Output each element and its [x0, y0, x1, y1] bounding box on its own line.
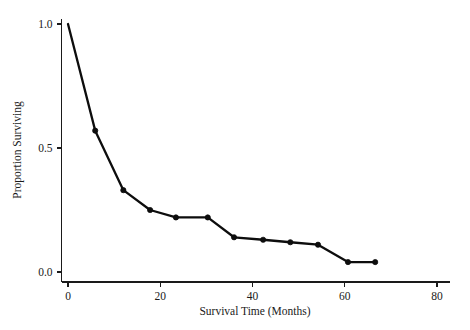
- chart-canvas: 0.00.51.0 020406080 Survival Time (Month…: [0, 0, 470, 330]
- data-point-marker: [315, 242, 320, 247]
- survival-line: [68, 24, 375, 262]
- data-point-marker: [345, 259, 350, 264]
- data-point-marker: [288, 240, 293, 245]
- x-axis-label: Survival Time (Months): [199, 305, 310, 318]
- survival-markers: [93, 128, 378, 265]
- x-tick-label: 40: [247, 290, 259, 302]
- axes-group: [62, 19, 451, 282]
- y-axis-label: Proportion Surviving: [11, 101, 24, 199]
- x-tick-label: 20: [155, 290, 167, 302]
- y-tick-label: 0.0: [38, 266, 53, 278]
- data-point-marker: [205, 215, 210, 220]
- survival-curve-figure: 0.00.51.0 020406080 Survival Time (Month…: [0, 0, 470, 330]
- data-point-marker: [231, 235, 236, 240]
- data-point-marker: [173, 215, 178, 220]
- x-tick-label: 80: [431, 290, 443, 302]
- y-tick-label: 1.0: [38, 18, 53, 30]
- x-tick-label: 60: [339, 290, 351, 302]
- data-point-marker: [373, 259, 378, 264]
- data-point-marker: [148, 207, 153, 212]
- data-point-marker: [121, 188, 126, 193]
- y-tick-group: 0.00.51.0: [38, 18, 61, 278]
- x-tick-label: 0: [65, 290, 71, 302]
- y-tick-label: 0.5: [38, 142, 53, 154]
- x-tick-group: 020406080: [65, 282, 443, 302]
- data-series-group: [68, 24, 378, 265]
- data-point-marker: [93, 128, 98, 133]
- data-point-marker: [261, 237, 266, 242]
